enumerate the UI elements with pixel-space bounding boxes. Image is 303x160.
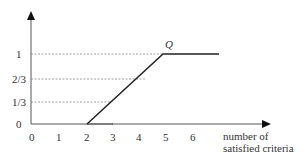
xlabel-line1: number of bbox=[223, 130, 269, 142]
xtick-6: 6 bbox=[190, 131, 196, 143]
xtick-0: 0 bbox=[29, 131, 35, 143]
xtick-1: 1 bbox=[56, 131, 62, 143]
xtick-4: 4 bbox=[136, 131, 142, 143]
ytick-2-3: 2/3 bbox=[12, 73, 26, 85]
y-axis-arrow-icon bbox=[27, 11, 35, 20]
ytick-0: 0 bbox=[16, 118, 22, 130]
xtick-5: 5 bbox=[163, 131, 169, 143]
ytick-1-3: 1/3 bbox=[12, 96, 26, 108]
xtick-2: 2 bbox=[84, 131, 90, 143]
ytick-1: 1 bbox=[16, 48, 22, 60]
xtick-3: 3 bbox=[110, 131, 116, 143]
x-axis-arrow-icon bbox=[262, 120, 271, 128]
point-q-label: Q bbox=[165, 38, 173, 50]
xlabel-line2: satisfied criteria bbox=[223, 142, 294, 154]
series-q-line bbox=[87, 54, 219, 124]
